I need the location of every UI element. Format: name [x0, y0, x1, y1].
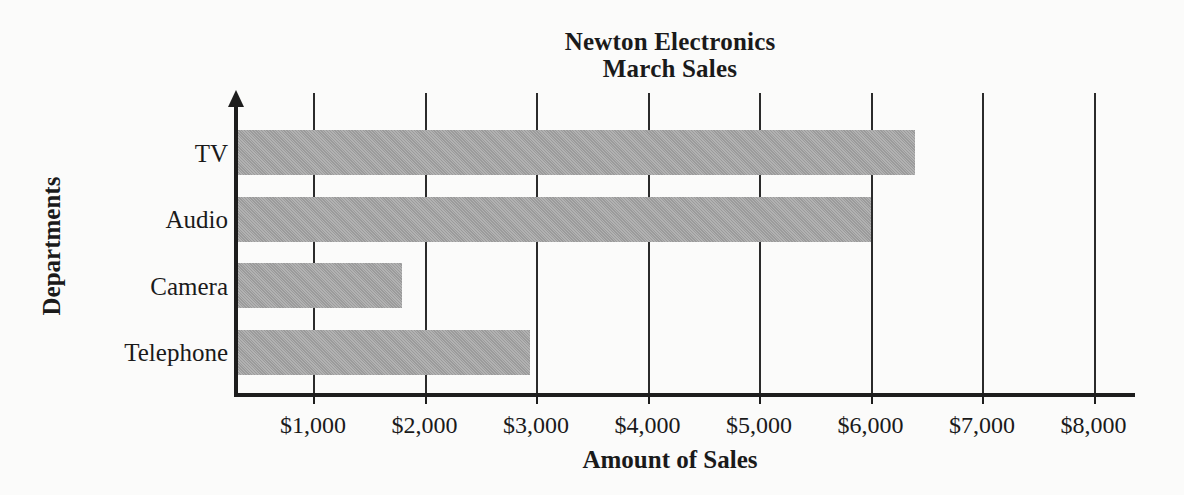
x-axis-tick	[425, 395, 427, 404]
x-axis-tick-label: $6,000	[811, 412, 931, 438]
x-axis-tick	[871, 395, 873, 404]
bar	[236, 263, 402, 308]
x-axis-tick-label: $1,000	[253, 412, 373, 438]
x-axis-tick	[313, 395, 315, 404]
x-axis-tick-label: $7,000	[922, 412, 1042, 438]
bar	[236, 130, 915, 175]
y-axis-title: Departments	[38, 146, 66, 346]
gridline	[982, 93, 984, 395]
x-axis-tick	[536, 395, 538, 404]
x-axis-tick-label: $5,000	[699, 412, 819, 438]
x-axis-tick	[982, 395, 984, 404]
x-axis-title: Amount of Sales	[460, 446, 880, 474]
bar	[236, 330, 530, 375]
gridline	[1094, 93, 1096, 395]
x-axis-tick-label: $3,000	[476, 412, 596, 438]
x-axis-tick	[759, 395, 761, 404]
y-axis-line	[234, 104, 238, 396]
x-axis-tick-label: $8,000	[1034, 412, 1154, 438]
bar	[236, 197, 871, 242]
x-axis-line	[234, 393, 1135, 397]
x-axis-tick-label: $2,000	[365, 412, 485, 438]
chart-title-line1: Newton Electronics	[565, 28, 776, 55]
x-axis-tick	[1094, 395, 1096, 404]
x-axis-tick-label: $4,000	[588, 412, 708, 438]
chart-title-line2: March Sales	[440, 55, 900, 82]
chart-title: Newton Electronics March Sales	[440, 28, 900, 82]
chart-figure: Newton Electronics March Sales TVAudioCa…	[0, 0, 1184, 495]
x-axis-tick	[648, 395, 650, 404]
plot-area	[236, 92, 1133, 395]
